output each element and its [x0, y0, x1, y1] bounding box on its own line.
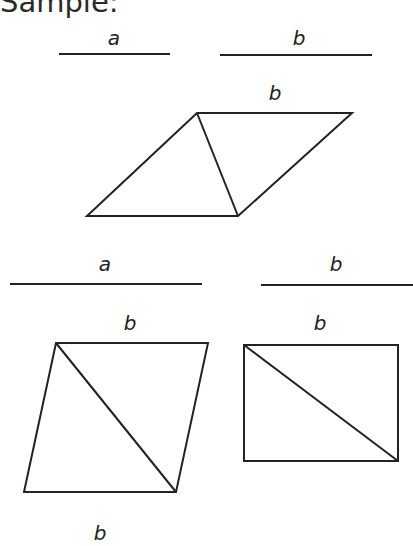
figure-top-parallelogram-outline — [87, 113, 352, 216]
figure-top-parallelogram-diagonal — [197, 113, 238, 216]
diagram-canvas — [0, 0, 413, 546]
figure-left-parallelogram-diagonal — [56, 343, 176, 492]
figure-right-rectangle-diagonal — [244, 345, 398, 461]
